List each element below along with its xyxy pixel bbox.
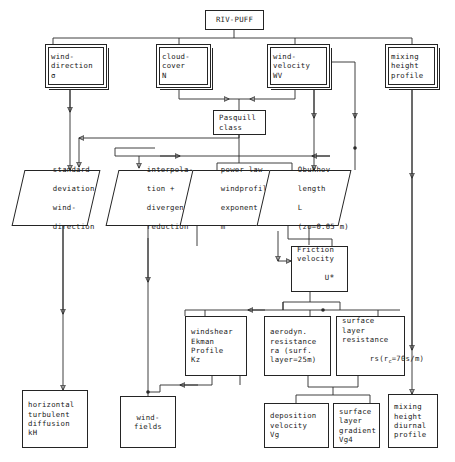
node-std-dev-line4: direction [53,222,95,231]
node-windshear-ekman-profile[interactable]: windshear Ekman Profile Kz [185,316,247,376]
node-wind-direction-line3: σ [51,71,101,80]
node-windshear-line1: windshear [191,327,241,336]
subscript-star: * [330,274,335,283]
node-mixing-height-profile-line3: profile [391,71,432,80]
node-power-law-line1: power law [221,165,263,174]
node-windshear-line4: Kz [191,355,241,364]
node-aerodyn-line1: aerodyn. [270,327,325,336]
flowchart-canvas: RIV-PUFF wind- direction σ cloud- cover … [0,0,455,462]
node-windshear-line2: Ekman [191,337,241,346]
node-pasquill-class-line2: class [219,123,260,132]
node-surface-layer-resistance[interactable]: surface layer resistance rs(rc=70s/m) [336,316,405,376]
node-wind-velocity-line2: velocity [273,61,324,70]
node-surface-layer-gradient[interactable]: surface layer gradient Vg4 [333,403,380,448]
node-surface-gradient-line4: Vg4 [339,435,374,444]
node-cloud-cover-line2: cover [162,61,205,70]
node-surface-gradient-line3: gradient [339,426,374,435]
node-wind-velocity-line1: wind- [273,52,324,61]
node-surface-resistance-line1: surface [342,316,399,325]
node-windfields-line2: fields [134,422,162,431]
node-power-law-line4: m [221,222,226,231]
node-friction-velocity-line1: Friction [297,245,342,254]
node-std-dev-line1: standard [53,165,90,174]
node-interpolation-line2: tion + [147,184,175,193]
node-pasquill-class[interactable]: Pasquill class [213,110,266,135]
node-mixing-height-diurnal-profile[interactable]: mixing height diurnal profile [388,394,438,448]
node-obukhov-line1: Obukhov [298,165,331,174]
node-mixing-height-profile[interactable]: mixing height profile [385,44,438,88]
node-horizontal-diffusion-line4: kH [28,428,82,437]
node-surface-resistance-line3: resistance [342,335,399,344]
node-aerodyn-line2: resistance [270,337,325,346]
node-aerodynamic-resistance[interactable]: aerodyn. resistance ra (surf. layer=25m) [264,316,331,376]
node-surface-gradient-line1: surface [339,407,374,416]
node-cloud-cover[interactable]: cloud- cover N [156,44,211,88]
node-wind-velocity[interactable]: wind- velocity WV [267,44,330,88]
node-friction-velocity[interactable]: Friction velocity U* [291,246,348,292]
node-mixing-diurnal-line3: diurnal [394,421,432,430]
node-surface-resistance-line4: rs(rc=70s/m) [342,345,399,376]
node-obukhov-line2: length [298,184,326,193]
node-friction-velocity-line2: velocity [297,254,342,263]
node-mixing-height-profile-line2: height [391,61,432,70]
node-wind-direction[interactable]: wind- direction σ [45,44,107,88]
node-riv-puff[interactable]: RIV-PUFF [205,10,264,30]
node-wind-direction-line2: direction [51,61,101,70]
node-windfields-line1: wind- [136,413,159,422]
node-riv-puff-label: RIV-PUFF [216,15,253,24]
node-deposition-velocity-line2: velocity [270,421,323,430]
node-mixing-diurnal-line1: mixing [394,402,432,411]
node-horizontal-diffusion-line3: diffusion [28,419,82,428]
node-surface-gradient-line2: layer [339,416,374,425]
node-wind-direction-line1: wind- [51,52,101,61]
node-obukhov-length[interactable]: Obukhov length L (zo=0.05 m) [263,170,345,226]
node-mixing-height-profile-line1: mixing [391,52,432,61]
node-std-dev-line2: deviation [53,184,95,193]
node-horizontal-diffusion-line2: turbulent [28,410,82,419]
node-power-law-windprofile-exponent[interactable]: power law windprofile exponent m [186,170,266,226]
node-standard-deviation-wind-direction[interactable]: standard deviation wind- direction [18,170,94,226]
node-wind-velocity-line3: WV [273,71,324,80]
node-mixing-diurnal-line4: profile [394,430,432,439]
node-surface-resistance-line2: layer [342,326,399,335]
node-windshear-line3: Profile [191,346,241,355]
node-obukhov-line4: (zo=0.05 m) [298,222,349,231]
node-cloud-cover-line3: N [162,71,205,80]
node-obukhov-line3: L [298,203,303,212]
node-std-dev-line3: wind- [53,203,76,212]
node-cloud-cover-line1: cloud- [162,52,205,61]
node-mixing-diurnal-line2: height [394,412,432,421]
node-horizontal-turbulent-diffusion[interactable]: horizontal turbulent diffusion kH [22,390,88,448]
node-deposition-velocity-line3: Vg [270,430,323,439]
node-power-law-line3: exponent [221,203,258,212]
node-horizontal-diffusion-line1: horizontal [28,400,82,409]
node-deposition-velocity[interactable]: deposition velocity Vg [264,403,329,448]
node-windfields[interactable]: wind- fields [120,396,176,448]
node-deposition-velocity-line1: deposition [270,411,323,420]
node-friction-velocity-line3: U* [297,264,342,293]
node-aerodyn-line3: ra (surf. [270,346,325,355]
node-aerodyn-line4: layer=25m) [270,355,325,364]
node-interpolation-divergence[interactable]: interpola- tion + divergence reduction [112,170,188,226]
node-pasquill-class-line1: Pasquill [219,113,260,122]
